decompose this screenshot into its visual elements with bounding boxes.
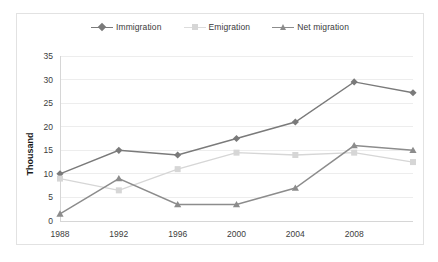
series-emigration — [57, 150, 416, 194]
data-point-marker — [174, 151, 181, 158]
data-point-marker — [115, 175, 122, 181]
y-tick-label: 0 — [48, 216, 53, 226]
series-line — [60, 153, 413, 191]
data-point-marker — [175, 166, 181, 172]
y-tick-label: 25 — [44, 98, 54, 108]
y-axis-ticks: 05101520253035 — [44, 51, 54, 226]
x-tick-label: 1988 — [51, 229, 70, 239]
series-line — [60, 82, 413, 174]
y-tick-label: 35 — [44, 51, 54, 61]
y-tick-label: 20 — [44, 122, 54, 132]
x-tick-label: 2008 — [345, 229, 364, 239]
data-point-marker — [234, 150, 240, 156]
data-point-marker — [233, 135, 240, 142]
x-tick-label: 1992 — [109, 229, 128, 239]
series-immigration — [56, 78, 416, 177]
x-tick-label: 2000 — [227, 229, 246, 239]
chart-plot: 05101520253035 198819921996200020042008 … — [17, 14, 425, 246]
y-tick-label: 15 — [44, 145, 54, 155]
data-point-marker — [57, 176, 63, 182]
data-point-marker — [115, 147, 122, 154]
y-tick-label: 10 — [44, 169, 54, 179]
data-point-marker — [351, 150, 357, 156]
data-point-marker — [116, 187, 122, 193]
data-point-marker — [56, 210, 63, 216]
x-axis-ticks: 198819921996200020042008 — [51, 229, 364, 239]
data-point-marker — [409, 89, 416, 96]
y-axis-label: Thousand — [25, 133, 35, 176]
y-tick-label: 5 — [48, 192, 53, 202]
data-point-marker — [292, 152, 298, 158]
x-tick-label: 1996 — [168, 229, 187, 239]
data-series-layer — [56, 78, 416, 216]
x-tick-label: 2004 — [286, 229, 305, 239]
data-point-marker — [410, 159, 416, 165]
chart-container: Immigration Emigration Net migration 051… — [16, 13, 424, 245]
y-tick-label: 30 — [44, 75, 54, 85]
